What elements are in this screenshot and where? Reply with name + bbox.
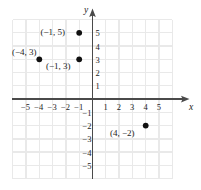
y-tick-minus-1: −1 bbox=[83, 109, 92, 118]
x-tick-4: 4 bbox=[143, 103, 147, 112]
point-marker-neg1-3 bbox=[76, 56, 82, 62]
point-label-neg4-3: (−4, 3) bbox=[12, 48, 37, 57]
y-tick-5: 5 bbox=[96, 29, 100, 38]
y-tick-4: 4 bbox=[96, 43, 100, 52]
x-tick-2: 2 bbox=[117, 103, 121, 112]
x-tick-3: 3 bbox=[130, 103, 134, 112]
point-marker-4-neg2 bbox=[143, 123, 149, 129]
point-label-neg1-5: (−1, 5) bbox=[41, 28, 66, 37]
x-tick-minus-3: −3 bbox=[48, 103, 57, 112]
plot-canvas bbox=[0, 0, 201, 190]
point-label-4-neg2: (4, −2) bbox=[110, 129, 135, 138]
y-tick-2: 2 bbox=[96, 69, 100, 78]
coordinate-plane-figure: y x −5 −4 −3 −2 −1 1 2 3 4 5 1 2 3 4 5 −… bbox=[0, 0, 201, 190]
x-axis-label: x bbox=[189, 103, 193, 113]
x-tick-5: 5 bbox=[157, 103, 161, 112]
point-label-neg1-3: (−1, 3) bbox=[46, 62, 71, 71]
point-marker-neg1-5 bbox=[76, 30, 82, 36]
y-tick-minus-4: −4 bbox=[83, 149, 92, 158]
y-tick-3: 3 bbox=[96, 56, 100, 65]
x-tick-1: 1 bbox=[104, 103, 108, 112]
x-tick-minus-2: −2 bbox=[61, 103, 70, 112]
y-tick-minus-5: −5 bbox=[83, 162, 92, 171]
y-axis-label: y bbox=[84, 6, 88, 16]
y-tick-minus-2: −2 bbox=[83, 122, 92, 131]
y-tick-minus-3: −3 bbox=[83, 135, 92, 144]
point-marker-neg4-3 bbox=[36, 56, 42, 62]
y-tick-1: 1 bbox=[96, 82, 100, 91]
x-tick-minus-4: −4 bbox=[34, 103, 43, 112]
x-tick-minus-5: −5 bbox=[21, 103, 30, 112]
